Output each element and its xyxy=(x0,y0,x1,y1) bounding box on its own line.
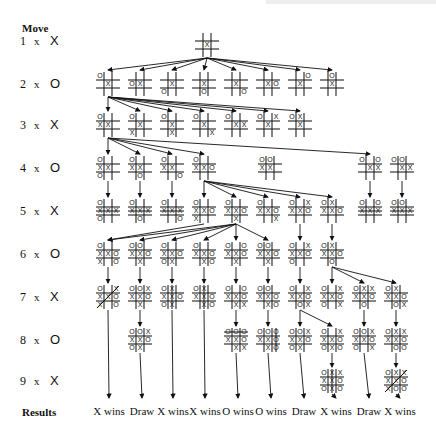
svg-text:X: X xyxy=(226,336,231,343)
svg-text:O: O xyxy=(369,336,375,343)
svg-text:O: O xyxy=(137,285,143,292)
svg-text:O: O xyxy=(161,242,167,249)
tic-tac-toe-board: OXXO xyxy=(128,156,152,180)
svg-text:O: O xyxy=(259,156,265,163)
svg-text:X: X xyxy=(106,80,111,87)
tic-tac-toe-board: OOXXOX xyxy=(256,242,280,266)
tic-tac-toe-board: OXXOX xyxy=(192,199,216,223)
svg-text:O: O xyxy=(273,250,279,257)
svg-text:X: X xyxy=(106,121,111,128)
tree-edge-arrow xyxy=(108,58,207,70)
svg-text:O: O xyxy=(401,336,407,343)
svg-text:O: O xyxy=(273,293,279,300)
tree-edge-arrow xyxy=(332,394,336,398)
tic-tac-toe-board: OXXXO xyxy=(96,199,120,223)
svg-text:X: X xyxy=(298,80,303,87)
svg-text:X: X xyxy=(298,344,303,351)
svg-text:X: X xyxy=(260,164,265,171)
svg-text:O: O xyxy=(353,344,359,351)
svg-text:O: O xyxy=(225,242,231,249)
tic-tac-toe-board: OXX xyxy=(96,113,120,137)
tic-tac-toe-board: XO xyxy=(160,72,184,96)
tic-tac-toe-board: OXX xyxy=(192,113,216,137)
svg-text:X: X xyxy=(266,344,271,351)
svg-text:O: O xyxy=(257,285,263,292)
svg-text:X: X xyxy=(298,113,303,120)
svg-text:O: O xyxy=(113,250,119,257)
svg-text:X: X xyxy=(290,293,295,300)
svg-text:X: X xyxy=(394,336,399,343)
tree-edge-arrow xyxy=(204,181,268,197)
svg-text:X: X xyxy=(306,242,311,249)
svg-text:O: O xyxy=(289,285,295,292)
svg-text:X: X xyxy=(138,344,143,351)
tic-tac-toe-board: OXXO xyxy=(160,156,184,180)
game-result: Draw xyxy=(357,405,381,417)
tic-tac-toe-board: OOOXXOXX xyxy=(224,328,248,352)
tree-edge-arrow xyxy=(108,224,236,240)
svg-text:O: O xyxy=(161,113,167,120)
tic-tac-toe-board: OXXXOOX xyxy=(288,285,312,309)
svg-text:O: O xyxy=(401,385,407,392)
svg-text:O: O xyxy=(399,199,405,206)
svg-text:X: X xyxy=(386,293,391,300)
svg-text:X: X xyxy=(234,301,239,308)
svg-text:X: X xyxy=(226,293,231,300)
svg-text:O: O xyxy=(161,156,167,163)
svg-text:X: X xyxy=(266,258,271,265)
tree-edge-arrow xyxy=(204,181,300,197)
tic-tac-toe-board: OXXXOOX xyxy=(384,285,408,309)
tic-tac-toe-board: OXXOX xyxy=(256,199,280,223)
svg-text:X: X xyxy=(330,80,335,87)
tic-tac-toe-board: OOXXOX xyxy=(128,242,152,266)
svg-text:X: X xyxy=(130,164,135,171)
svg-text:X: X xyxy=(394,369,399,376)
svg-text:O: O xyxy=(193,242,199,249)
tic-tac-toe-board: OOXXOXO xyxy=(256,285,280,309)
svg-text:X: X xyxy=(298,293,303,300)
svg-text:O: O xyxy=(193,113,199,120)
tic-tac-toe-board: OX xyxy=(128,72,152,96)
svg-text:O: O xyxy=(273,301,279,308)
svg-text:O: O xyxy=(97,113,103,120)
tic-tac-toe-board: OXXXXOO xyxy=(352,285,376,309)
svg-text:X: X xyxy=(194,215,199,222)
tic-tac-toe-board: OXX xyxy=(224,113,248,137)
svg-text:O: O xyxy=(225,199,231,206)
svg-text:X: X xyxy=(234,80,239,87)
svg-text:X: X xyxy=(194,164,199,171)
svg-text:O: O xyxy=(97,199,103,206)
svg-text:O: O xyxy=(321,385,327,392)
tic-tac-toe-board: OXX xyxy=(256,113,280,137)
tic-tac-toe-board: OOXXOX xyxy=(224,242,248,266)
tree-edge-arrow xyxy=(172,224,236,240)
svg-text:X: X xyxy=(138,121,143,128)
svg-text:O: O xyxy=(129,80,135,87)
svg-text:X: X xyxy=(298,121,303,128)
svg-text:O: O xyxy=(177,215,183,222)
svg-text:X: X xyxy=(234,250,239,257)
svg-text:O: O xyxy=(97,156,103,163)
svg-text:O: O xyxy=(305,72,311,79)
svg-text:O: O xyxy=(97,215,103,222)
svg-text:X: X xyxy=(106,250,111,257)
svg-text:X: X xyxy=(322,293,327,300)
tree-edge-arrow xyxy=(300,310,332,326)
svg-text:X: X xyxy=(376,164,381,171)
svg-text:X: X xyxy=(266,207,271,214)
svg-text:X: X xyxy=(394,285,399,292)
svg-text:X: X xyxy=(330,250,335,257)
svg-text:O: O xyxy=(391,156,397,163)
game-result: X wins xyxy=(320,405,351,417)
svg-text:O: O xyxy=(305,293,311,300)
svg-text:X: X xyxy=(268,164,273,171)
tic-tac-toe-board: OXXXOOXO xyxy=(320,328,344,352)
svg-text:X: X xyxy=(234,121,239,128)
tic-tac-toe-board: OX xyxy=(96,72,120,96)
svg-text:X: X xyxy=(138,250,143,257)
tree-edge-arrow xyxy=(108,138,204,154)
tic-tac-toe-board: X xyxy=(195,33,219,57)
svg-text:X: X xyxy=(290,250,295,257)
svg-text:O: O xyxy=(137,172,143,179)
svg-text:O: O xyxy=(401,293,407,300)
